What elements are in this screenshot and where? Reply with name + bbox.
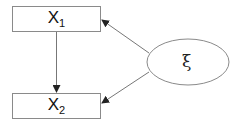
x2-symbol: X — [48, 95, 59, 114]
node-x1-label: X1 — [12, 8, 101, 29]
x1-subscript: 1 — [59, 17, 65, 29]
edge-xi-to-x1 — [102, 20, 149, 53]
node-xi-label: ξ — [182, 51, 191, 71]
node-x2-label: X2 — [12, 95, 101, 116]
edge-xi-to-x2 — [102, 72, 149, 103]
x1-symbol: X — [48, 8, 59, 27]
x2-subscript: 2 — [59, 104, 65, 116]
